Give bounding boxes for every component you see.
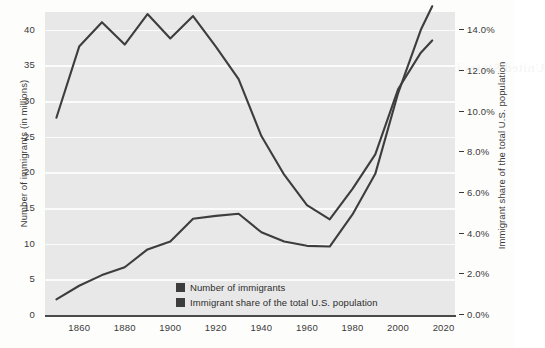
tick-mark bbox=[459, 151, 464, 152]
y-axis-right-tick-label: 12.0% bbox=[459, 65, 495, 76]
x-axis-tick-label: 1920 bbox=[205, 322, 227, 333]
data-lines bbox=[45, 12, 455, 315]
tick-text: 12.0% bbox=[467, 65, 495, 76]
x-axis-tick-label: 2020 bbox=[433, 322, 455, 333]
x-axis-tick-label: 2000 bbox=[387, 322, 409, 333]
y-axis-right-tick-label: 8.0% bbox=[459, 146, 489, 157]
y-axis-right-tick-label: 0.0% bbox=[459, 309, 489, 320]
y-axis-right-tick-label: 6.0% bbox=[459, 187, 489, 198]
tick-mark bbox=[459, 70, 464, 71]
y-axis-left-tick-label: 40 bbox=[5, 24, 35, 35]
tick-mark bbox=[459, 29, 464, 30]
chart-legend: Number of immigrantsImmigrant share of t… bbox=[176, 281, 378, 311]
tick-text: 8.0% bbox=[467, 146, 489, 157]
tick-text: 2.0% bbox=[467, 268, 489, 279]
legend-item-label: Immigrant share of the total U.S. popula… bbox=[190, 297, 378, 308]
legend-swatch-icon bbox=[176, 298, 185, 307]
tick-mark bbox=[459, 111, 464, 112]
y-axis-right-tick-label: 2.0% bbox=[459, 268, 489, 279]
line-immigrant-share bbox=[56, 14, 432, 219]
tick-text: 10.0% bbox=[467, 106, 495, 117]
legend-item: Immigrant share of the total U.S. popula… bbox=[176, 296, 378, 309]
tick-mark bbox=[459, 192, 464, 193]
x-axis-tick-label: 1960 bbox=[296, 322, 318, 333]
tick-mark bbox=[459, 314, 464, 315]
y-axis-right-tick-label: 4.0% bbox=[459, 228, 489, 239]
x-axis-tick-label: 1940 bbox=[250, 322, 272, 333]
tick-text: 4.0% bbox=[467, 228, 489, 239]
y-axis-left-title: Number of immigrants (in millions) bbox=[18, 39, 29, 269]
x-axis-tick-label: 1900 bbox=[159, 322, 181, 333]
y-axis-left-tick-label: 5 bbox=[5, 273, 35, 284]
x-axis-tick-label: 1880 bbox=[114, 322, 136, 333]
legend-item-label: Number of immigrants bbox=[190, 282, 285, 293]
tick-text: 6.0% bbox=[467, 187, 489, 198]
tick-mark bbox=[459, 233, 464, 234]
x-axis-tick-label: 1980 bbox=[342, 322, 364, 333]
legend-item: Number of immigrants bbox=[176, 281, 378, 294]
tick-mark bbox=[459, 273, 464, 274]
y-axis-right-title: Immigrant share of the total U.S. popula… bbox=[496, 41, 507, 271]
y-axis-right-tick-label: 10.0% bbox=[459, 106, 495, 117]
x-axis-line bbox=[45, 315, 456, 317]
y-axis-left-tick-label: 0 bbox=[5, 309, 35, 320]
tick-text: 14.0% bbox=[467, 24, 495, 35]
legend-swatch-icon bbox=[176, 283, 185, 292]
y-axis-right-tick-label: 14.0% bbox=[459, 24, 495, 35]
tick-text: 0.0% bbox=[467, 309, 489, 320]
plot-area bbox=[45, 12, 455, 315]
x-axis-tick-label: 1860 bbox=[68, 322, 90, 333]
